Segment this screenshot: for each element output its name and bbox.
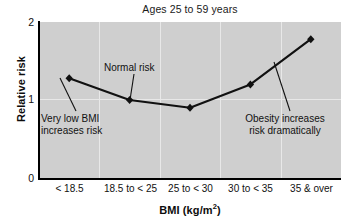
plot-area xyxy=(39,22,341,178)
x-tick-label: 30 to < 35 xyxy=(220,183,281,195)
y-axis-line xyxy=(38,21,40,179)
y-axis-label: Relative risk xyxy=(15,24,27,154)
chart-figure: Ages 25 to 59 years 2 1 0 Relative risk … xyxy=(0,0,345,223)
x-axis-label-main: BMI (kg/m xyxy=(159,204,212,216)
x-axis-line xyxy=(38,178,341,180)
x-tick-label: 25 to < 30 xyxy=(160,183,221,195)
x-tick-label: 35 & over xyxy=(281,183,342,195)
annotation-very-low-bmi: Very low BMI increases risk xyxy=(41,113,102,136)
annotation-normal-risk: Normal risk xyxy=(104,62,155,74)
x-tick-label: < 18.5 xyxy=(39,183,100,195)
y-tick-label: 0 xyxy=(1,173,34,184)
gridline-vertical xyxy=(220,22,221,178)
gridline-horizontal xyxy=(39,99,341,100)
x-tick-label: 18.5 to < 25 xyxy=(100,183,161,195)
gridline-vertical xyxy=(160,22,161,178)
annotation-obesity: Obesity increases risk dramatically xyxy=(229,113,341,136)
x-axis-label-tail: ) xyxy=(217,204,221,216)
chart-title: Ages 25 to 59 years xyxy=(39,3,341,16)
gridline-vertical xyxy=(99,22,100,178)
gridline-vertical xyxy=(281,22,282,178)
x-axis-label: BMI (kg/m2) xyxy=(39,204,341,216)
